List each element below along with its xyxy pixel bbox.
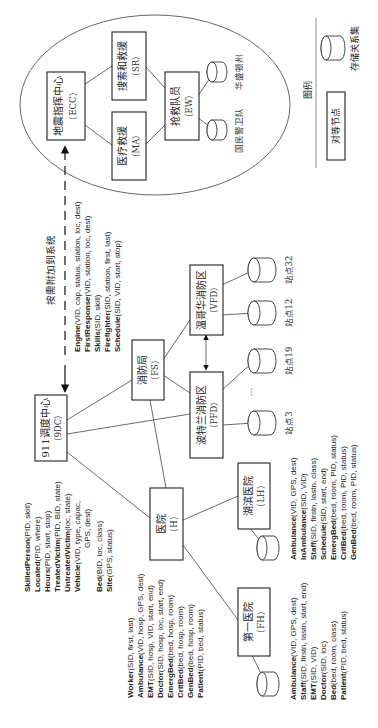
schema-fh: Ambulance(VID, GPS, dest) Staff(SID, fir… [289,582,348,700]
svg-text:Bed(BID, loc, class): Bed(BID, loc, class) [95,521,104,592]
store-s32-label: 站点32 [284,256,294,285]
svg-text:Skills(SID, skill): Skills(SID, skill) [93,294,102,352]
store-ellipsis: … [244,388,254,397]
node-ecc[interactable]: 地震指挥中心 （ECC） [47,72,85,140]
svg-text:Bed(bed, room, class): Bed(bed, room, class) [329,621,338,700]
svg-text:FirstResponse(VID, station, lo: FirstResponse(VID, station, loc, dest) [83,215,92,352]
svg-text:InAmbulance(SID, VID): InAmbulance(SID, VID) [299,473,308,560]
dashed-link-label: 按需附加到系统 [45,235,56,305]
pfd-code: （PFD） [209,397,219,433]
node-fh[interactable]: 第一医院 （FH） [238,588,270,656]
vfd-label: 温哥华消防区 [195,270,207,330]
ma-code: （MA） [131,130,141,163]
node-fs[interactable]: 消防局 （FS） [132,340,164,400]
lh-code: （LH） [256,480,266,511]
diagram-canvas: 地震指挥中心 （ECC） 搜索和救援 （SR） 医疗救援 （MA） 抢救队员 （… [0,0,378,728]
schema-fs: Engine(VID, cap, status, station, loc, d… [73,201,122,352]
store-s12-label: 站点12 [284,299,294,328]
node-vfd[interactable]: 温哥华消防区 （VFD） [190,265,223,335]
schema-9dc: SkilledPerson(PID, skill) Located(PID, w… [23,481,114,592]
svg-text:Located(PID, where): Located(PID, where) [33,516,42,592]
legend-relation-store: 存储关系集 [349,26,360,71]
h-label: 医院 [155,514,167,534]
fh-label: 第一医院 [242,602,254,642]
svg-text:GPS, dest): GPS, dest) [83,509,92,548]
svg-text:GenBed(bed, room, PID, status): GenBed(bed, room, PID, status) [349,444,358,560]
schema-h: Worker(SID, first, last) Ambulance(VID, … [126,573,205,698]
legend-peer-node: 对等节点 [330,108,341,144]
legend: 图例 对等节点 存储关系集 [302,18,360,168]
store-fh [257,672,279,696]
svg-text:Doctor(SID, loc): Doctor(SID, loc) [319,641,328,700]
sr-code: （SR） [131,51,141,81]
svg-text:UntreatedVictim(loc, state): UntreatedVictim(loc, state) [63,493,72,592]
ecc-label: 地震指挥中心 [52,76,64,136]
ecc-code: （ECC） [68,87,78,124]
svg-text:Schedule(SID, VID, start, stop: Schedule(SID, VID, start, stop) [113,240,122,352]
svg-text:CritBed(bed, hosp, room): CritBed(bed, hosp, room) [176,606,185,698]
svg-text:TreatedVictim(PID, BID, state): TreatedVictim(PID, BID, state) [53,481,62,592]
svg-text:Staff(SID, firstn, lastn, clas: Staff(SID, firstn, lastn, class) [309,457,318,560]
vfd-code: （VFD） [209,282,219,319]
store-wa-label: 华盛顿州 [234,54,244,90]
fh-code: （FH） [256,606,266,637]
svg-text:Doctor(SID, hosp, loc, start,: Doctor(SID, hosp, loc, start, end) [156,579,165,698]
node-ew[interactable]: 抢救队员 （EW） [165,72,199,140]
svg-text:Ambulance(VID, GPS, dest): Ambulance(VID, GPS, dest) [289,597,298,700]
node-sr[interactable]: 搜索和救援 （SR） [112,32,146,100]
9dc-label: 911调度中心 [39,398,51,457]
ma-label: 医疗救援 [116,126,128,166]
node-h[interactable]: 医院 （H） [150,488,183,560]
svg-text:EmergBed(bed, room, PID, statu: EmergBed(bed, room, PID, status) [329,435,338,560]
node-lh[interactable]: 湖滨医院 （LH） [238,463,270,529]
store-s19-label: 站点19 [284,347,294,376]
lh-label: 湖滨医院 [242,476,254,516]
h-code: （H） [169,511,179,536]
pfd-label: 波特兰消防区 [195,385,207,445]
store-s12: 站点12 [248,299,294,328]
svg-text:EMT(SID, hosp, VID, start, end: EMT(SID, hosp, VID, start, end) [146,585,155,698]
sr-label: 搜索和救援 [116,41,128,91]
svg-text:Worker(SID, first, last): Worker(SID, first, last) [126,617,135,698]
svg-text:Ambulance(VID, GPS, dest): Ambulance(VID, GPS, dest) [289,457,298,560]
legend-title: 图例 [302,81,313,99]
fs-code: （FS） [150,355,160,385]
svg-text:GenBed(bed, hosp, room): GenBed(bed, hosp, room) [186,604,195,698]
svg-text:Hours(PID, start, stop): Hours(PID, start, stop) [43,510,52,592]
ew-code: （EW） [184,90,194,123]
svg-text:Vehicle(VID, type, capac,: Vehicle(VID, type, capac, [73,501,82,592]
svg-text:EMT(SID, VID): EMT(SID, VID) [309,646,318,700]
store-lh [257,536,279,560]
fs-label: 消防局 [136,355,148,385]
node-9dc[interactable]: 911调度中心 （9DC） [35,395,67,461]
svg-text:Schedule(SID, start, end): Schedule(SID, start, end) [319,468,328,560]
store-s32: 站点32 [248,256,294,285]
9dc-code: （9DC） [53,410,63,447]
store-s19: 站点19 [248,347,294,376]
svg-text:Site(GPS, status): Site(GPS, status) [105,529,114,592]
svg-text:Patient(PID, bed, status): Patient(PID, bed, status) [196,609,205,698]
store-wa: 华盛顿州 [207,54,244,90]
store-ng: 国民警卫队 [207,108,244,153]
schema-lh: Ambulance(VID, GPS, dest) InAmbulance(SI… [289,435,358,560]
svg-text:Firefighter(SID, station, firs: Firefighter(SID, station, first, last) [103,231,112,352]
svg-text:CritBed(bed, room, PID, status: CritBed(bed, room, PID, status) [339,446,348,560]
store-ng-label: 国民警卫队 [234,108,244,153]
svg-text:SkilledPerson(PID, skill): SkilledPerson(PID, skill) [23,502,32,592]
node-pfd[interactable]: 波特兰消防区 （PFD） [190,372,223,458]
svg-text:Ambulance(VID, hosp, GPS, dest: Ambulance(VID, hosp, GPS, dest) [136,573,145,698]
ew-label: 抢救队员 [169,86,181,126]
store-s3: 站点3 [248,411,294,435]
svg-text:Staff(SID, firstn, lastn, star: Staff(SID, firstn, lastn, start, end) [299,582,308,700]
store-s3-label: 站点3 [284,411,294,434]
svg-text:EmergBed(bed, hosp, room): EmergBed(bed, hosp, room) [166,595,175,698]
svg-text:Engine(VID, cap, status, stati: Engine(VID, cap, status, station, loc, d… [73,201,82,352]
node-ma[interactable]: 医疗救援 （MA） [112,112,146,180]
svg-text:Patient(PID, bed, status): Patient(PID, bed, status) [339,611,348,700]
